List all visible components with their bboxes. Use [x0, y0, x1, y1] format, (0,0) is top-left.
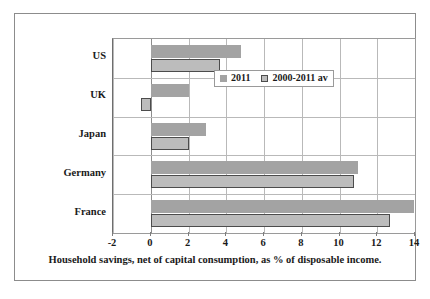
x-tick-label-2: 2: [185, 238, 190, 249]
legend-item-average: 2000-2011 av: [261, 73, 327, 83]
series-2011-swatch: [220, 75, 227, 82]
x-tick-label-14: 14: [409, 238, 420, 249]
gridline-x--2: [113, 39, 114, 233]
gridline-category-france: [113, 194, 415, 195]
gridline-category-japan: [113, 117, 415, 118]
x-tick-label-0: 0: [147, 238, 152, 249]
y-axis-label-us: US: [93, 51, 106, 62]
legend-label-average: 2000-2011 av: [272, 73, 327, 83]
x-tick-mark-4: [225, 232, 226, 236]
y-axis-label-france: France: [75, 207, 107, 218]
gridline-category-germany: [113, 155, 415, 156]
legend-label-2011: 2011: [231, 73, 250, 83]
bar-uk-2011: [151, 84, 190, 97]
bar-germany-2011: [151, 161, 359, 174]
x-tick-mark-14: [414, 232, 415, 236]
bar-germany-average: [151, 175, 354, 188]
x-tick-mark-8: [301, 232, 302, 236]
bar-france-2011: [151, 200, 414, 213]
x-tick-label-10: 10: [333, 238, 344, 249]
x-axis-title: Household savings, net of capital consum…: [15, 254, 415, 266]
bar-us-2011: [151, 45, 242, 58]
plot-area: [112, 38, 416, 234]
x-tick-label-8: 8: [298, 238, 303, 249]
series-average-swatch: [261, 75, 268, 82]
bar-us-average: [151, 59, 220, 72]
x-tick-mark--2: [112, 232, 113, 236]
y-axis-label-japan: Japan: [79, 129, 106, 140]
x-tick-label-6: 6: [260, 238, 265, 249]
y-axis-label-uk: UK: [90, 90, 106, 101]
y-axis-labels: USUKJapanGermanyFrance: [15, 38, 106, 234]
x-tick-label-4: 4: [223, 238, 228, 249]
bar-france-average: [151, 214, 391, 227]
chart-legend: 20112000-2011 av: [214, 70, 334, 87]
gridline-x-14: [415, 39, 416, 233]
bar-uk-average: [141, 98, 150, 111]
x-tick-label--2: -2: [108, 238, 117, 249]
x-tick-mark-2: [188, 232, 189, 236]
x-tick-mark-0: [150, 232, 151, 236]
x-tick-mark-10: [339, 232, 340, 236]
bar-japan-2011: [151, 123, 207, 136]
bar-japan-average: [151, 137, 190, 150]
x-tick-mark-12: [376, 232, 377, 236]
chart-figure: USUKJapanGermanyFrance 20112000-2011 av …: [14, 13, 416, 281]
legend-item-2011: 2011: [220, 73, 250, 83]
x-tick-mark-6: [263, 232, 264, 236]
y-axis-label-germany: Germany: [63, 168, 106, 179]
x-tick-label-12: 12: [371, 238, 382, 249]
x-axis-ticks: -202468101214: [112, 236, 416, 252]
